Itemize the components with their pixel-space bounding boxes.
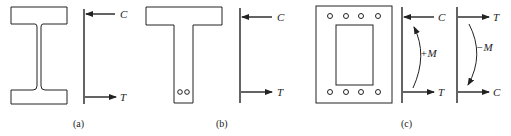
moment-label-negative: −M: [476, 41, 493, 53]
rebar: [178, 90, 183, 95]
force-label-t: T: [120, 91, 127, 103]
bottom-rebars: [328, 90, 381, 95]
force-label-c: C: [438, 11, 446, 23]
force-label-t: T: [493, 11, 500, 23]
force-label-c: C: [277, 11, 285, 23]
t-beam-section: [146, 7, 222, 103]
negative-moment-arrow: [468, 24, 477, 85]
beam-sections-figure: C T (a) C T (b) C: [0, 0, 511, 136]
caption-b: (b): [216, 118, 228, 130]
rebar: [185, 90, 190, 95]
box-section-void: [336, 25, 373, 85]
force-label-c: C: [493, 86, 501, 98]
panel-b: C T (b): [146, 7, 285, 130]
force-label-c: C: [120, 8, 128, 20]
top-rebars: [328, 14, 381, 19]
panel-c: C T +M T C −M (c): [316, 6, 501, 130]
force-label-t: T: [277, 86, 284, 98]
i-beam-section: [11, 7, 67, 104]
force-label-t: T: [438, 86, 445, 98]
moment-label-positive: +M: [420, 47, 437, 59]
caption-c: (c): [401, 118, 412, 130]
box-section-outer: [316, 6, 392, 103]
panel-a: C T (a): [11, 7, 128, 130]
caption-a: (a): [73, 118, 84, 130]
